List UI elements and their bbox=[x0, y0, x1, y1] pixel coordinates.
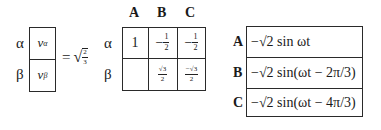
radical-sign: √ bbox=[73, 48, 82, 66]
phase-c-expression: −√2 sin(ωt − 4π/3) bbox=[248, 88, 362, 117]
minus-sign: − bbox=[185, 35, 193, 51]
beta-subscript: β bbox=[43, 71, 47, 80]
phase-a-expression: −√2 sin ωt bbox=[248, 26, 362, 57]
coefficient-fraction: 2 3 bbox=[82, 48, 88, 66]
matrix-cell-beta-b: √3 2 bbox=[148, 58, 177, 91]
coefficient-denominator: 3 bbox=[83, 58, 87, 66]
numerator: √3 bbox=[158, 66, 167, 75]
coefficient-expression: = √ 2 3 bbox=[62, 48, 88, 66]
matrix-cell-alpha-a: 1 bbox=[122, 27, 148, 58]
numerator: 1 bbox=[192, 33, 198, 43]
matrix-cell-beta-a bbox=[122, 58, 148, 91]
cell-value: 1 bbox=[132, 35, 139, 51]
denominator: 2 bbox=[193, 43, 197, 52]
denominator: 2 bbox=[190, 75, 194, 83]
v-alpha-entry: vα bbox=[29, 27, 56, 59]
expression-text: −√2 sin ωt bbox=[251, 34, 310, 50]
matrix-cell-alpha-c: − 1 2 bbox=[177, 27, 206, 58]
row-label-alpha: α bbox=[104, 36, 112, 51]
matrix-cell-alpha-b: − 1 2 bbox=[148, 27, 177, 58]
fraction: 1 2 bbox=[163, 33, 169, 52]
fraction: −√3 2 bbox=[185, 66, 198, 83]
expression-text: −√2 sin(ωt − 2π/3) bbox=[251, 65, 356, 81]
column-header-a: A bbox=[129, 5, 139, 21]
fraction: √3 2 bbox=[158, 66, 167, 83]
matrix-cell-beta-c: −√3 2 bbox=[177, 58, 206, 91]
numerator: 1 bbox=[163, 33, 169, 43]
row-label-c: C bbox=[233, 95, 243, 111]
denominator: 2 bbox=[164, 43, 168, 52]
minus-sign: − bbox=[156, 35, 164, 51]
equals-sign: = bbox=[62, 49, 70, 66]
row-label-a: A bbox=[233, 34, 243, 50]
denominator: 2 bbox=[161, 75, 165, 83]
column-header-c: C bbox=[185, 5, 195, 21]
row-label-beta: β bbox=[16, 67, 24, 82]
coefficient-numerator: 2 bbox=[82, 49, 88, 58]
numerator: −√3 bbox=[185, 66, 198, 75]
row-label-alpha: α bbox=[16, 36, 24, 51]
expression-text: −√2 sin(ωt − 4π/3) bbox=[251, 95, 356, 111]
column-header-b: B bbox=[157, 5, 166, 21]
phase-b-expression: −√2 sin(ωt − 2π/3) bbox=[248, 57, 362, 88]
v-beta-entry: vβ bbox=[29, 59, 56, 91]
alpha-subscript: α bbox=[43, 39, 47, 48]
row-label-beta: β bbox=[104, 67, 112, 82]
fraction: 1 2 bbox=[192, 33, 198, 52]
row-label-b: B bbox=[233, 65, 242, 81]
